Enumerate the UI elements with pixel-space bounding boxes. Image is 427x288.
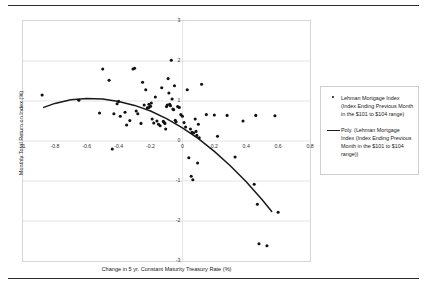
y-tick-label: 2 — [170, 58, 180, 63]
x-axis-title: Change in 5 yr. Constant Maturity Treasu… — [22, 266, 311, 272]
y-tick-label: -1 — [170, 178, 180, 183]
y-tick-label: 3 — [170, 18, 180, 23]
top-divider-rule — [8, 5, 419, 6]
legend-label-trendline: Poly. (Lehman Mortgage Index (Index Endi… — [341, 126, 414, 159]
x-tick-label: 0.2 — [211, 144, 218, 149]
x-tick-label: 0 — [181, 144, 184, 149]
plot-area — [22, 20, 311, 262]
x-tick-label: -0.2 — [146, 144, 155, 149]
x-tick-label: -1 — [21, 144, 26, 149]
y-tick-label: 1 — [170, 98, 180, 103]
x-tick-label: 0.8 — [306, 144, 313, 149]
legend-label-scatter: Lehman Mortgage Index (Index Ending Prev… — [341, 94, 414, 119]
y-axis-title: Monthly Total Return on Index (%) — [18, 68, 24, 198]
legend-marker-dot-icon — [325, 94, 341, 98]
legend-entry-trendline: Poly. (Lehman Mortgage Index (Index Endi… — [325, 126, 414, 159]
figure: Change in 5 yr. Constant Maturity Treasu… — [0, 0, 427, 288]
y-tick-label: 0 — [170, 138, 180, 143]
y-tick-label: -3 — [170, 258, 180, 263]
bottom-divider-rule — [8, 278, 419, 279]
legend-marker-line-icon — [325, 126, 341, 132]
x-tick-label: -0.6 — [82, 144, 91, 149]
y-tick-label: -2 — [170, 218, 180, 223]
x-tick-label: -0.8 — [50, 144, 59, 149]
chart-legend: Lehman Mortgage Index (Index Ending Prev… — [320, 86, 419, 175]
x-tick-label: -0.4 — [114, 144, 123, 149]
x-tick-label: 0.6 — [275, 144, 282, 149]
legend-entry-scatter: Lehman Mortgage Index (Index Ending Prev… — [325, 94, 414, 119]
x-tick-label: 0.4 — [243, 144, 250, 149]
plot-svg — [23, 21, 310, 261]
